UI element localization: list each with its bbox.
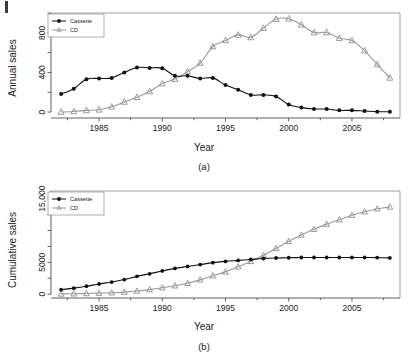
data-point-cassette — [287, 256, 291, 260]
data-point-cassette — [72, 87, 76, 91]
data-point-cassette — [84, 77, 88, 81]
x-tick-label: 2005 — [342, 123, 361, 133]
data-point-cassette — [287, 103, 291, 107]
data-point-cassette — [375, 110, 379, 114]
data-point-cassette — [337, 256, 341, 260]
data-point-cassette — [148, 66, 152, 70]
data-point-cassette — [97, 282, 101, 286]
data-point-cassette — [211, 261, 215, 265]
x-tick-label: 1995 — [216, 123, 235, 133]
data-point-cassette — [262, 257, 266, 261]
data-point-cassette — [299, 256, 303, 260]
data-point-cassette — [350, 108, 354, 112]
figure-page: Annual sales 0400800 — [0, 0, 408, 358]
data-point-cassette — [211, 76, 215, 80]
data-point-cassette — [148, 272, 152, 276]
data-point-cassette — [337, 108, 341, 112]
y-axis-title: Cumulative sales — [7, 212, 18, 288]
x-axis-title: Year — [194, 321, 215, 332]
data-point-cassette — [122, 70, 126, 74]
x-tick-label: 2000 — [279, 303, 298, 313]
data-point-cassette — [59, 92, 63, 96]
legend-label-cd: CD — [70, 27, 78, 33]
series-cassette — [59, 256, 392, 292]
y-tick-label: 0 — [37, 109, 47, 114]
data-point-cassette — [325, 107, 329, 111]
x-tick-label: 2005 — [342, 303, 361, 313]
data-point-cassette — [135, 65, 139, 69]
data-point-cassette — [160, 66, 164, 70]
data-point-cassette — [236, 259, 240, 263]
data-point-cassette — [72, 286, 76, 290]
data-point-cassette — [198, 263, 202, 267]
data-point-cassette — [274, 256, 278, 260]
x-axis-title: Year — [194, 142, 215, 153]
data-point-cd — [387, 204, 393, 209]
x-tick-label: 1995 — [216, 303, 235, 313]
chart-panel-annual-sales: Annual sales 0400800 — [0, 0, 408, 175]
annual-sales-chart: Annual sales 0400800 — [0, 0, 408, 175]
legend-label-cassette: Cassette — [70, 196, 92, 202]
data-point-cassette — [110, 76, 114, 80]
data-point-cassette — [198, 76, 202, 80]
series-cassette — [59, 65, 392, 113]
data-point-cassette — [135, 274, 139, 278]
x-tick-label: 1990 — [153, 303, 172, 313]
data-point-cassette — [236, 88, 240, 92]
x-axis-group: 19851990199520002005 — [51, 118, 400, 133]
data-point-cassette — [122, 278, 126, 282]
legend-label-cassette: Cassette — [70, 18, 92, 24]
y-tick-label: 400 — [37, 65, 47, 79]
data-point-cassette — [97, 76, 101, 80]
x-tick-label: 2000 — [279, 123, 298, 133]
data-point-cassette — [261, 93, 265, 97]
y-axis-title: Annual sales — [7, 39, 18, 96]
legend-marker-cassette — [57, 197, 61, 201]
panel-caption-b: (b) — [198, 341, 210, 352]
data-point-cassette — [160, 269, 164, 273]
data-point-cassette — [110, 280, 114, 284]
legend-label-cd: CD — [70, 205, 78, 211]
cumulative-sales-chart: Cumulative sales 0500015,000 1985199 — [0, 175, 408, 358]
data-point-cassette — [388, 110, 392, 114]
data-point-cassette — [59, 288, 63, 292]
data-point-cassette — [224, 259, 228, 263]
panel-caption-a: (a) — [198, 161, 210, 172]
y-tick-label: 800 — [37, 25, 47, 39]
chart-panel-cumulative-sales: Cumulative sales 0500015,000 1985199 — [0, 175, 408, 358]
data-point-cassette — [312, 256, 316, 260]
x-tick-label: 1985 — [90, 303, 109, 313]
data-point-cassette — [186, 74, 190, 78]
data-point-cassette — [363, 109, 367, 113]
data-point-cassette — [274, 94, 278, 98]
data-point-cassette — [186, 265, 190, 269]
data-point-cassette — [312, 107, 316, 111]
x-axis-group: 19851990199520002005 — [51, 298, 400, 313]
data-point-cassette — [85, 284, 89, 288]
data-point-cassette — [375, 256, 379, 260]
data-point-cassette — [249, 93, 253, 97]
data-point-cassette — [299, 106, 303, 110]
y-tick-label: 15,000 — [37, 185, 47, 211]
legend-b[interactable]: Cassette CD — [48, 192, 104, 215]
x-tick-label: 1985 — [90, 123, 109, 133]
data-point-cassette — [363, 256, 367, 260]
data-point-cassette — [350, 256, 354, 260]
data-point-cassette — [249, 258, 253, 262]
data-point-cassette — [224, 83, 228, 87]
legend-a[interactable]: Cassette CD — [48, 14, 104, 37]
y-tick-label: 0 — [37, 292, 47, 297]
series-cd — [58, 16, 393, 115]
data-point-cassette — [173, 266, 177, 270]
data-point-cassette — [388, 256, 392, 260]
legend-marker-cassette — [57, 19, 61, 23]
data-point-cassette — [325, 256, 329, 260]
data-point-cassette — [173, 74, 177, 78]
y-tick-label: 5000 — [37, 253, 47, 272]
x-tick-label: 1990 — [153, 123, 172, 133]
